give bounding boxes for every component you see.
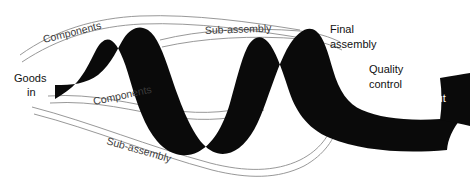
label-quality-control: Quality control — [369, 63, 404, 90]
goods-in-line2: in — [27, 86, 36, 98]
process-flow-diagram: Goods in Components Sub-assembly Compone… — [0, 0, 470, 187]
quality-control-line2: control — [369, 78, 402, 90]
goods-in-line1: Goods — [14, 72, 47, 84]
label-subassembly-top: Sub-assembly — [205, 22, 273, 36]
label-final-assembly: Final assembly — [330, 23, 377, 50]
final-assembly-line2: assembly — [330, 38, 377, 50]
quality-control-line1: Quality — [369, 63, 404, 75]
label-goods-out: Goods out — [395, 92, 446, 104]
label-components-top: Components — [42, 19, 103, 45]
diagram-canvas: Goods in Components Sub-assembly Compone… — [0, 0, 470, 187]
label-goods-in: Goods in — [14, 72, 47, 98]
final-assembly-line1: Final — [330, 23, 354, 35]
